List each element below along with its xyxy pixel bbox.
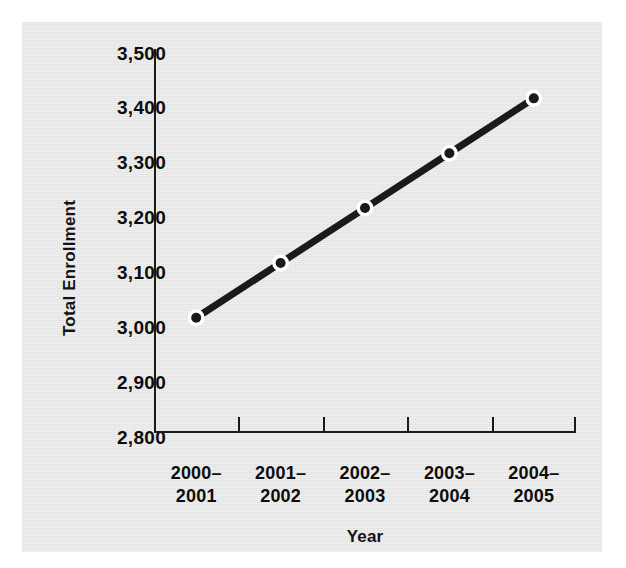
x-tick-label: 2003– 2004 xyxy=(407,462,491,522)
plot-area xyxy=(154,49,576,433)
chart-figure: Total Enrollment 3,500 3,400 3,300 3,200… xyxy=(0,0,626,568)
x-tick-label: 2001– 2002 xyxy=(238,462,322,522)
x-tick-label-line1: 2002– xyxy=(339,463,390,483)
x-tick-label-line1: 2003– xyxy=(424,463,475,483)
data-point xyxy=(444,148,454,158)
x-tick-label: 2000– 2001 xyxy=(154,462,238,522)
x-tick-label-line1: 2001– xyxy=(255,463,306,483)
x-axis-tick-labels: 2000– 2001 2001– 2002 2002– 2003 2003– 2… xyxy=(154,462,576,522)
x-tick-label-line2: 2005 xyxy=(492,485,576,508)
x-tick-label-line2: 2004 xyxy=(407,485,491,508)
data-point xyxy=(191,313,201,323)
data-point xyxy=(360,203,370,213)
y-axis-tick-labels: 3,500 3,400 3,300 3,200 3,100 3,000 2,90… xyxy=(62,22,166,552)
data-point xyxy=(276,258,286,268)
chart-card: Total Enrollment 3,500 3,400 3,300 3,200… xyxy=(22,22,602,552)
x-tick-label-line2: 2003 xyxy=(323,485,407,508)
x-axis-title: Year xyxy=(154,527,576,547)
x-tick-label-line1: 2004– xyxy=(508,463,559,483)
x-tick-label: 2002– 2003 xyxy=(323,462,407,522)
x-tick-label-line2: 2002 xyxy=(238,485,322,508)
x-tick-label-line1: 2000– xyxy=(171,463,222,483)
enrollment-line-series xyxy=(154,49,576,433)
data-point xyxy=(529,93,539,103)
x-tick-label-line2: 2001 xyxy=(154,485,238,508)
x-tick-label: 2004– 2005 xyxy=(492,462,576,522)
